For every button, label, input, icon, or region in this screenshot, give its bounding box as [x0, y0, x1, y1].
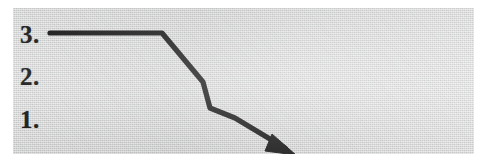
descending-arrow-graphic — [13, 8, 474, 154]
tier-label-2: 2. — [20, 64, 40, 89]
descending-arrow-path — [50, 33, 285, 148]
tier-label-3: 3. — [20, 22, 40, 47]
tier-label-1: 1. — [20, 107, 40, 132]
scan-noise-texture — [13, 8, 474, 154]
scanned-page: 3. 2. 1. — [0, 0, 496, 160]
arrowhead-icon — [265, 134, 296, 154]
scan-vignette — [13, 8, 474, 154]
scan-paper-area: 3. 2. 1. — [13, 8, 474, 154]
